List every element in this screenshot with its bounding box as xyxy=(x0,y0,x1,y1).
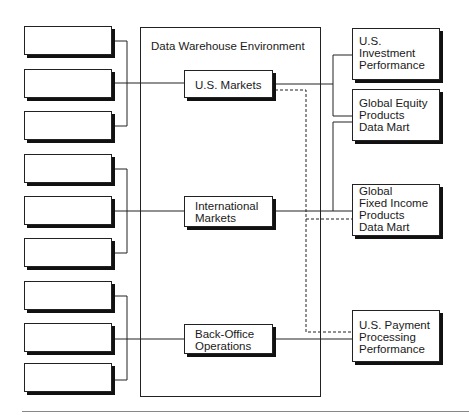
mart-global-equity-products: Global Equity Products Data Mart xyxy=(352,89,440,141)
mart-label: Global Fixed Income Products Data Mart xyxy=(359,185,428,233)
bottom-rule xyxy=(22,411,469,412)
node-label: International Markets xyxy=(195,200,258,224)
intl-equity-link xyxy=(333,122,352,211)
source-box-9 xyxy=(24,363,112,392)
source-box-5 xyxy=(24,196,112,225)
source-bracket-3 xyxy=(115,296,127,380)
source-box-8 xyxy=(24,323,112,352)
mart-label: U.S. Payment Processing Performance xyxy=(359,319,430,355)
environment-title: Data Warehouse Environment xyxy=(151,40,305,52)
source-box-1 xyxy=(24,26,112,55)
source-box-7 xyxy=(24,281,112,310)
mart-us-payment-processing-performance: U.S. Payment Processing Performance xyxy=(352,310,440,362)
node-us-markets: U.S. Markets xyxy=(184,70,273,98)
mart-label: U.S. Investment Performance xyxy=(359,35,425,71)
node-back-office-operations: Back-Office Operations xyxy=(184,324,273,354)
mart-global-fixed-income-products: Global Fixed Income Products Data Mart xyxy=(352,184,440,236)
mart-label: Global Equity Products Data Mart xyxy=(359,97,427,133)
us-marts-bracket xyxy=(333,55,352,116)
node-label: U.S. Markets xyxy=(195,79,261,91)
source-box-4 xyxy=(24,154,112,183)
source-box-6 xyxy=(24,238,112,267)
source-box-2 xyxy=(24,69,112,98)
mart-us-investment-performance: U.S. Investment Performance xyxy=(352,28,440,80)
node-international-markets: International Markets xyxy=(184,196,273,227)
source-box-3 xyxy=(24,111,112,140)
node-label: Back-Office Operations xyxy=(195,328,254,352)
